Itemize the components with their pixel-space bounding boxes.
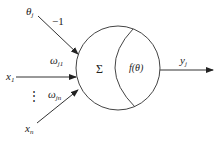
- summation-symbol: Σ: [96, 63, 103, 75]
- neuron-diagram: θj −1 ωj1 x1 ⋮ ωjn xn Σ f(θ) yj: [0, 0, 223, 141]
- weight-jn-label: ωjn: [48, 89, 61, 102]
- ellipsis: ⋮: [28, 90, 40, 102]
- neuron-circle: [76, 26, 160, 110]
- bias-label: θj: [26, 6, 33, 19]
- weight-j1-label: ωj1: [50, 55, 63, 68]
- input-x1-label: x1: [6, 71, 14, 84]
- input-xn-label: xn: [25, 123, 33, 136]
- activation-function-label: f(θ): [129, 63, 143, 73]
- bias-weight-label: −1: [52, 16, 64, 27]
- neuron-diagram-graphics: [0, 0, 223, 141]
- output-label: yj: [180, 55, 187, 68]
